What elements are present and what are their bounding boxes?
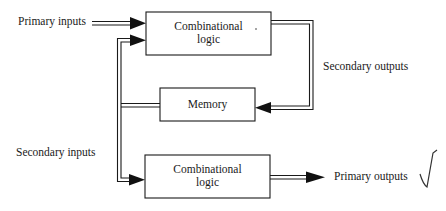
primary-inputs-connector (92, 22, 132, 26)
top-logic-line2: logic (146, 33, 271, 46)
bottom-logic-line1: Combinational (145, 163, 270, 176)
memory-input-arrowhead (255, 102, 271, 114)
bottom-logic-line2: logic (145, 176, 270, 189)
secondary-inputs-bus (118, 39, 133, 182)
primary-outputs-connector (270, 176, 308, 180)
memory-label: Memory (160, 98, 255, 111)
primary-outputs-label: Primary outputs (334, 170, 408, 182)
secondary-outputs-label: Secondary outputs (323, 60, 408, 72)
secondary-inputs-label: Secondary inputs (16, 146, 96, 158)
top-logic-label: Combinational logic (146, 20, 271, 46)
top-logic-line1: Combinational (146, 20, 271, 33)
secondary-outputs-connector (268, 21, 313, 110)
primary-outputs-arrowhead (306, 172, 325, 184)
bottom-feedback-arrowhead (129, 174, 145, 186)
primary-inputs-label: Primary inputs (18, 15, 86, 27)
bottom-logic-label: Combinational logic (145, 163, 270, 189)
checkmark-annotation (420, 150, 437, 187)
primary-inputs-arrowhead (130, 17, 146, 30)
memory-to-bus-connector (121, 104, 160, 108)
top-feedback-arrowhead (130, 35, 146, 47)
